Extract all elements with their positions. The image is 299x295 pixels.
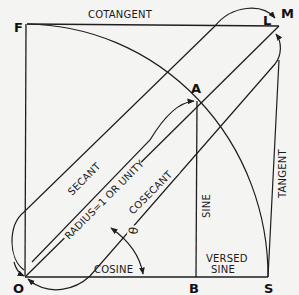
secant-line [12,8,275,270]
cotangent-line [27,24,279,26]
point-B: B [189,281,199,295]
origin-arrow-bottom [28,279,34,284]
sine-line [196,101,197,277]
label-versed-sine-1: VERSED [206,253,248,264]
label-cotangent: COTANGENT [88,9,153,20]
cosecant-line [30,34,280,290]
point-F: F [14,20,23,35]
trig-diagram: COTANGENT SECANT RADIUS=1 OR UNITY COSEC… [0,0,299,295]
point-M: M [281,6,294,21]
radius-line [25,26,279,277]
point-A: A [191,81,201,96]
label-cosine: COSINE [94,264,133,275]
label-sine: SINE [201,194,212,218]
point-L: L [263,13,271,28]
left-side-line [25,24,26,276]
point-O: O [13,281,24,295]
label-versed-sine-2: SINE [211,264,235,275]
label-tangent: TANGENT [277,149,288,199]
point-S: S [264,281,273,295]
